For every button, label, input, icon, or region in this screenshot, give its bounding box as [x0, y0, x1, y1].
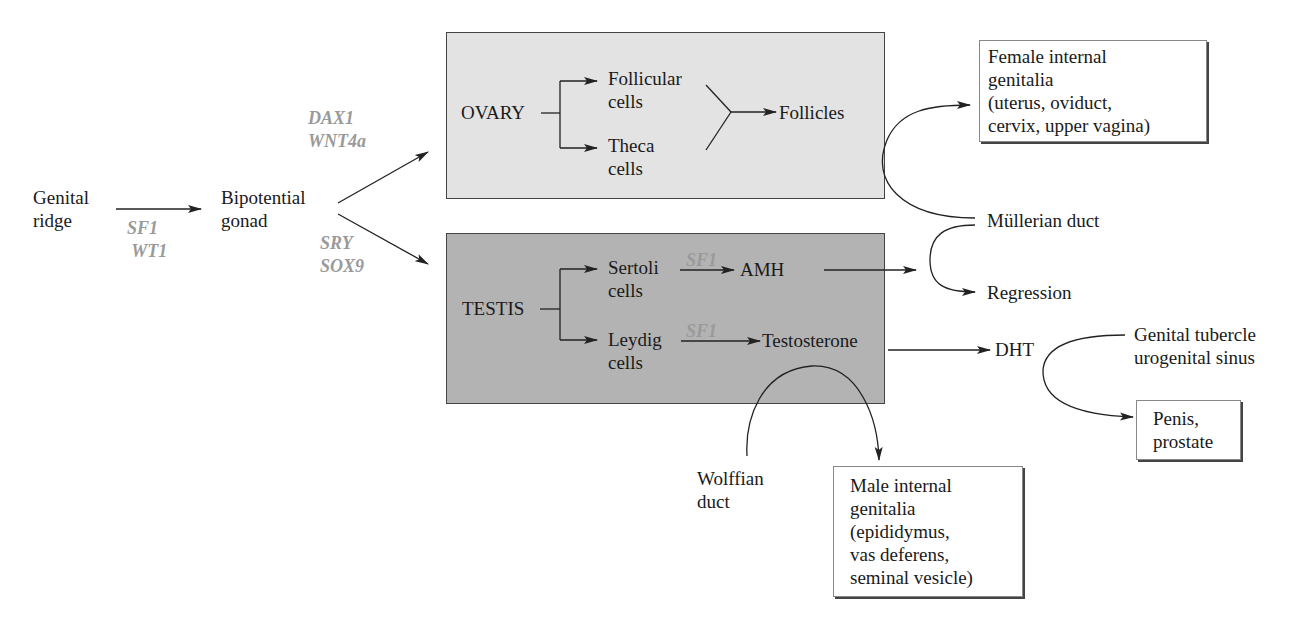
penis-prostate-text: Penis, prostate	[1145, 405, 1232, 455]
node-follicular-cells: Follicular cells	[608, 67, 682, 113]
gene-label-sf1-wt1: SF1 WT1	[127, 217, 167, 263]
gene-label-dax1-wnt4a: DAX1 WNT4a	[308, 107, 366, 153]
node-wolffian-duct: Wolffian duct	[697, 467, 764, 513]
female-internal-genitalia-text: Female internal genitalia (uterus, ovidu…	[988, 45, 1198, 137]
node-amh: AMH	[740, 258, 784, 281]
box-male-internal-genitalia: Male internal genitalia (epididymus, vas…	[833, 466, 1023, 597]
node-follicles: Follicles	[779, 101, 844, 124]
node-sertoli-cells: Sertoli cells	[608, 256, 659, 302]
node-theca-cells: Theca cells	[608, 134, 654, 180]
gene-label-sry-sox9: SRY SOX9	[320, 232, 364, 278]
node-leydig-cells: Leydig cells	[608, 328, 662, 374]
node-genital-ridge: Genital ridge	[33, 186, 89, 232]
gene-label-sf1-leydig: SF1	[686, 320, 717, 343]
node-bipotential-gonad: Bipotential gonad	[221, 186, 305, 232]
gene-label-sf1-sertoli: SF1	[686, 249, 717, 272]
male-internal-genitalia-text: Male internal genitalia (epididymus, vas…	[842, 471, 1014, 592]
box-female-internal-genitalia: Female internal genitalia (uterus, ovidu…	[979, 40, 1207, 142]
node-ovary: OVARY	[461, 101, 525, 124]
node-mullerian-duct: Müllerian duct	[987, 209, 1099, 232]
node-genital-tubercle: Genital tubercle urogenital sinus	[1134, 323, 1256, 369]
node-regression: Regression	[987, 281, 1071, 304]
node-testis: TESTIS	[462, 297, 524, 320]
box-penis-prostate: Penis, prostate	[1136, 400, 1241, 460]
node-testosterone: Testosterone	[762, 329, 858, 352]
node-dht: DHT	[995, 338, 1034, 361]
